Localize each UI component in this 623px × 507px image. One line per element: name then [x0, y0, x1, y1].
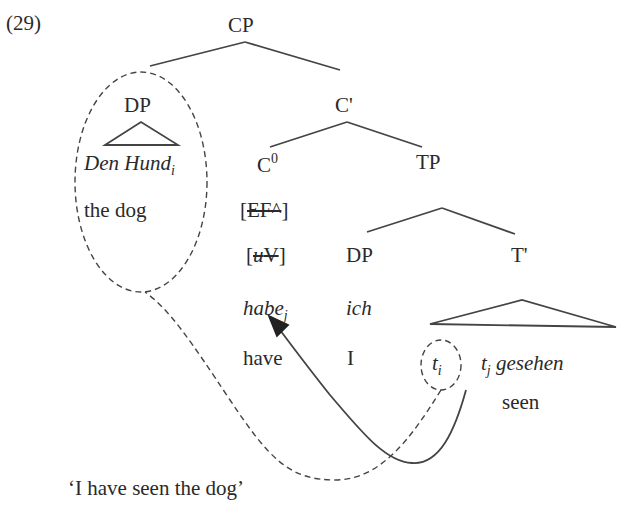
node-cp: CP [228, 15, 254, 36]
gloss-the-dog: the dog [84, 200, 146, 221]
feature-ef: [EF^] [240, 200, 288, 221]
gloss-i: I [347, 348, 354, 369]
translation: ‘I have seen the dog’ [68, 478, 244, 499]
branch-cbar-tp [347, 122, 422, 147]
feature-uv: [uV] [246, 245, 286, 266]
dp-triangle [105, 122, 178, 145]
tree-lines [0, 0, 623, 507]
branch-cp-cbar [245, 42, 340, 70]
example-number: (29) [6, 13, 41, 34]
index-j: j [284, 308, 288, 323]
node-dp-spec-cp: DP [124, 95, 151, 116]
node-t-bar: T' [511, 245, 528, 266]
branch-cbar-c0 [270, 122, 347, 147]
word-den-hund: Den Hundi [84, 153, 175, 178]
tbar-triangle [430, 300, 616, 327]
branch-tp-tbar [442, 208, 515, 234]
gloss-have: have [243, 348, 283, 369]
node-c-bar: C' [335, 95, 353, 116]
node-dp-spec-tp: DP [346, 245, 373, 266]
syntax-tree-diagram: (29) CP DP Den Hundi the dog C' C0 [EF^]… [0, 0, 623, 507]
index-i: i [171, 163, 175, 178]
trace-t-i: ti [432, 353, 442, 378]
node-tp: TP [416, 152, 441, 173]
branch-cp-dp [150, 42, 245, 66]
dp-movement-path [145, 292, 441, 480]
word-ich: ich [346, 298, 372, 319]
node-c0: C0 [257, 152, 278, 176]
branch-tp-dp [367, 208, 442, 232]
word-habe: habej [243, 298, 288, 323]
trace-t-j-gesehen: tj gesehen [481, 353, 564, 378]
head-movement-arrow [280, 330, 466, 463]
gloss-seen: seen [502, 392, 539, 413]
